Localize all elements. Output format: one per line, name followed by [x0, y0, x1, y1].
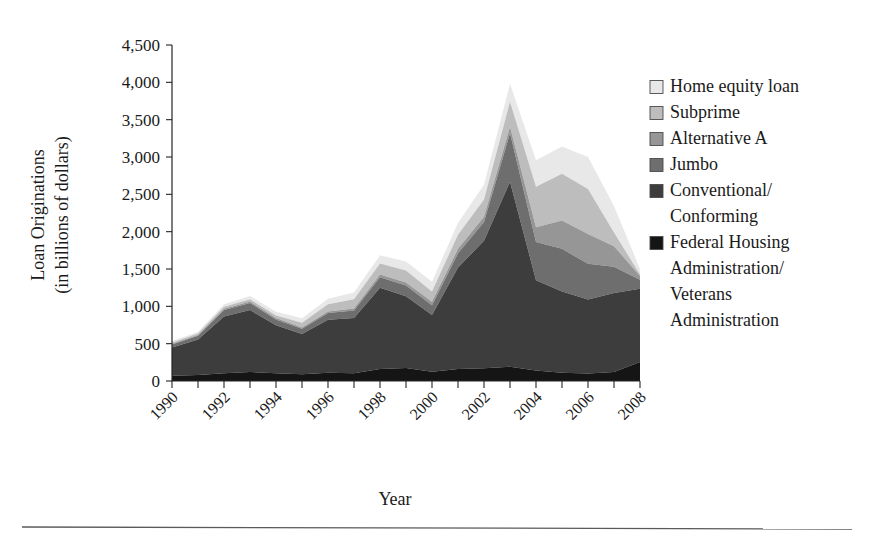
- legend-label-3: Alternative A: [670, 128, 767, 148]
- legend-swatch-2: [650, 107, 663, 120]
- y-axis-tick-label: 1,000: [122, 297, 160, 316]
- legend-swatch-6: [650, 237, 663, 250]
- legend-label-5: Conventional/: [670, 180, 772, 200]
- legend-swatch-5: [650, 185, 663, 198]
- legend-swatch-3: [650, 133, 663, 146]
- y-axis-tick-label: 3,000: [122, 148, 160, 167]
- legend-label-5: Conforming: [670, 206, 758, 226]
- y-axis-tick-label: 4,000: [122, 73, 160, 92]
- y-axis-tick-label: 2,500: [122, 185, 160, 204]
- legend-label-4: Jumbo: [670, 154, 718, 174]
- legend-label-6: Administration: [670, 310, 779, 330]
- legend-label-2: Subprime: [670, 102, 740, 122]
- y-axis-tick-label: 0: [152, 372, 161, 391]
- legend-label-6: Federal Housing: [670, 232, 789, 252]
- y-axis-tick-label: 1,500: [122, 260, 160, 279]
- legend-swatch-1: [650, 81, 663, 94]
- y-axis-tick-label: 3,500: [122, 111, 160, 130]
- y-axis-title-line1: Loan Originations: [28, 149, 48, 280]
- stacked-area-chart-figure: Loan Originations (in billions of dollar…: [0, 0, 874, 540]
- legend-label-1: Home equity loan: [670, 76, 799, 96]
- legend-label-6: Veterans: [670, 284, 732, 304]
- y-axis-tick-label: 4,500: [122, 36, 160, 55]
- legend-swatch-4: [650, 159, 663, 172]
- y-axis-tick-label: 500: [135, 335, 161, 354]
- x-axis-title: Year: [378, 489, 411, 509]
- legend-label-6: Administration/: [670, 258, 784, 278]
- y-axis-title-line2: (in billions of dollars): [52, 136, 73, 293]
- y-axis-tick-label: 2,000: [122, 223, 160, 242]
